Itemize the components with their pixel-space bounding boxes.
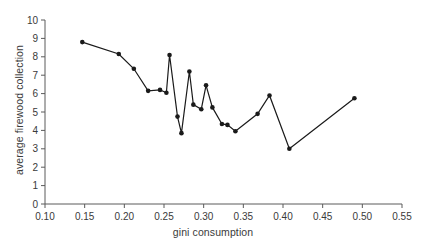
y-tick-label: 0 [32, 199, 38, 210]
x-tick-label: 0.45 [313, 211, 333, 222]
data-series [80, 40, 357, 151]
data-point [255, 112, 260, 117]
y-axis: 012345678910 [27, 15, 45, 210]
data-point [187, 69, 192, 74]
data-point [164, 90, 169, 95]
y-tick-label: 2 [32, 162, 38, 173]
data-point [220, 122, 225, 127]
x-tick-label: 0.50 [353, 211, 373, 222]
data-point [352, 96, 357, 101]
data-point [158, 88, 163, 93]
y-tick-label: 7 [32, 70, 38, 81]
y-tick-label: 3 [32, 143, 38, 154]
x-tick-label: 0.20 [115, 211, 135, 222]
data-point [225, 123, 230, 128]
data-point [175, 114, 180, 119]
data-point [233, 129, 238, 134]
data-point [116, 52, 121, 57]
data-point [179, 131, 184, 136]
data-point [80, 40, 85, 45]
x-tick-label: 0.30 [194, 211, 214, 222]
y-tick-label: 1 [32, 180, 38, 191]
x-axis-title: gini consumption [0, 226, 426, 238]
x-axis: 0.100.150.200.250.300.350.400.450.500.55 [35, 204, 412, 222]
data-point [132, 66, 137, 71]
y-tick-label: 4 [32, 125, 38, 136]
x-tick-label: 0.35 [234, 211, 254, 222]
x-tick-label: 0.15 [75, 211, 95, 222]
data-point [287, 147, 292, 152]
x-tick-label: 0.10 [35, 211, 55, 222]
data-point [210, 105, 215, 110]
y-tick-label: 9 [32, 33, 38, 44]
chart-figure: 012345678910 0.100.150.200.250.300.350.4… [0, 0, 426, 245]
x-tick-label: 0.25 [154, 211, 174, 222]
data-point [199, 107, 204, 112]
y-axis-title: average firewood collection [13, 35, 25, 185]
data-point [191, 102, 196, 107]
y-tick-label: 10 [27, 15, 39, 26]
data-point [167, 53, 172, 58]
data-point [146, 89, 151, 94]
line-chart-plot: 012345678910 0.100.150.200.250.300.350.4… [0, 0, 426, 245]
y-tick-label: 5 [32, 107, 38, 118]
x-tick-label: 0.40 [273, 211, 293, 222]
x-tick-label: 0.55 [392, 211, 412, 222]
y-tick-label: 8 [32, 51, 38, 62]
data-point [267, 93, 272, 98]
data-point [204, 83, 209, 88]
y-tick-label: 6 [32, 88, 38, 99]
